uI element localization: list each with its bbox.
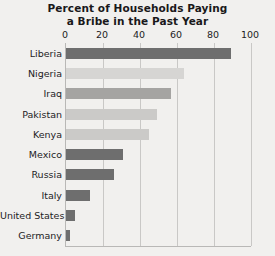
category-label-mexico: Mexico (0, 149, 62, 160)
bar-kenya (66, 129, 149, 140)
bar-chart: Percent of Households Paying a Bribe in … (0, 0, 275, 256)
bar-germany (66, 230, 70, 241)
x-tick-label-0: 0 (62, 29, 68, 41)
bar-mexico (66, 149, 123, 160)
x-tick-label-80: 80 (207, 29, 219, 41)
bar-liberia (66, 48, 231, 59)
bar-nigeria (66, 68, 184, 79)
chart-title: Percent of Households Paying a Bribe in … (0, 2, 275, 28)
y-axis-category-labels: LiberiaNigeriaIraqPakistanKenyaMexicoRus… (0, 43, 62, 246)
category-label-russia: Russia (0, 169, 62, 180)
category-label-germany: Germany (0, 230, 62, 241)
chart-title-line-1: Percent of Households Paying (0, 2, 275, 15)
bar-russia (66, 169, 114, 180)
bars-layer (66, 43, 250, 246)
bar-iraq (66, 88, 171, 99)
bar-italy (66, 190, 90, 201)
category-label-pakistan: Pakistan (0, 109, 62, 120)
x-tick-label-20: 20 (96, 29, 108, 41)
x-axis-tick-labels: 020406080100 (0, 29, 275, 42)
x-tick-label-60: 60 (170, 29, 182, 41)
category-label-italy: Italy (0, 190, 62, 201)
gridline-100 (251, 43, 252, 246)
category-label-kenya: Kenya (0, 129, 62, 140)
category-label-iraq: Iraq (0, 88, 62, 99)
x-tick-label-40: 40 (133, 29, 145, 41)
chart-title-line-2: a Bribe in the Past Year (0, 15, 275, 28)
bar-united-states (66, 210, 75, 221)
category-label-nigeria: Nigeria (0, 68, 62, 79)
bar-pakistan (66, 109, 157, 120)
category-label-united-states: United States (0, 210, 62, 221)
category-label-liberia: Liberia (0, 48, 62, 59)
x-tick-label-100: 100 (241, 29, 259, 41)
